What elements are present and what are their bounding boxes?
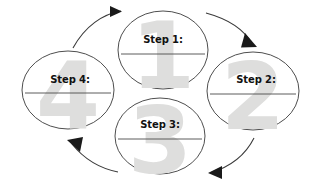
step-3-watermark: 3: [128, 88, 192, 195]
arrow-step4-to-step1: [73, 6, 122, 48]
step-4-watermark: 4: [36, 43, 100, 150]
arrowhead-icon: [110, 6, 122, 17]
node-step-3[interactable]: 3: [115, 88, 205, 195]
step-2-watermark: 2: [221, 44, 285, 151]
arrowhead-icon: [208, 166, 222, 179]
cycle-diagram: 4 1 2 3 Step 1: Step 2: Step 3: Step 4:: [0, 0, 311, 195]
arrow-step1-to-step2: [206, 13, 257, 48]
node-step-2[interactable]: 2: [207, 44, 299, 151]
diagram-canvas: 4 1 2 3: [0, 0, 311, 195]
node-step-4[interactable]: 4: [22, 43, 114, 150]
